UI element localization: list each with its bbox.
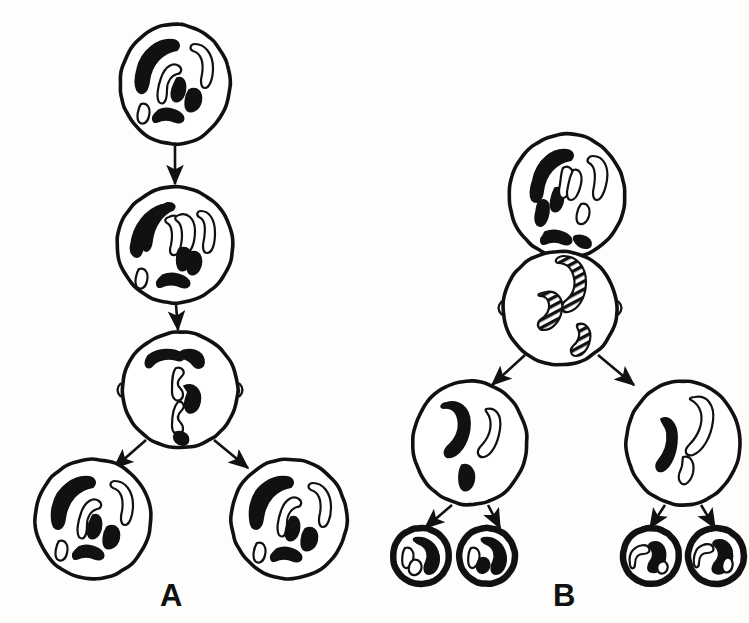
cell-secondary-cell-right[interactable] [626, 381, 740, 505]
cell-gamete-2[interactable] [459, 528, 515, 584]
cell-division-diagram [0, 0, 749, 623]
cell-parent-cell-interphase[interactable] [509, 134, 624, 259]
chromosome-light [409, 560, 422, 576]
cell-daughter-cell-right[interactable] [231, 459, 348, 579]
cell-gamete-1[interactable] [393, 528, 448, 584]
cell-parent-cell-interphase[interactable] [120, 24, 230, 144]
chromosome-dark [477, 558, 490, 574]
cell-daughter-cell-left[interactable] [35, 459, 151, 579]
chromosome-light [138, 104, 150, 124]
cell-prophase-duplicated-chromosomes[interactable] [117, 187, 233, 304]
cell-secondary-cell-left[interactable] [413, 381, 527, 505]
chromosome-dark [103, 526, 119, 549]
cell-meiosis-I-metaphase-tetrads[interactable] [499, 251, 622, 365]
cell-membrane [626, 381, 740, 505]
panel-label-b: B [553, 578, 575, 614]
chromosome-dark [174, 432, 189, 445]
chromosome-light [722, 558, 732, 573]
chromosome-dark [301, 528, 317, 551]
chromosome-light [56, 541, 68, 561]
chromosome-dark [185, 89, 201, 112]
cell-gamete-4[interactable] [688, 528, 744, 584]
chromosome-light [577, 204, 590, 225]
cell-gamete-3[interactable] [623, 528, 679, 584]
chromosome-dark [459, 465, 474, 491]
chromosome-light [136, 269, 148, 289]
chromosome-dark [184, 385, 200, 413]
panel-label-a: A [160, 578, 182, 614]
chromosome-light [254, 543, 266, 563]
chromosome-light [657, 562, 667, 574]
chromosome-dark [187, 252, 202, 275]
